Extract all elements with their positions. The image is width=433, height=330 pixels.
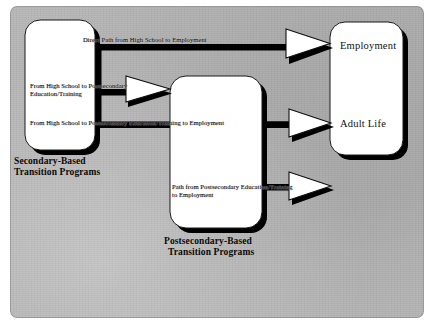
edge-label-hs-through-postsecondary: From High School to Postsecondary Educat… [30, 119, 224, 127]
edge-label-postsecondary-to-employment-line1: Path from Postsecondary Education/Traini… [172, 183, 293, 191]
caption-secondary-based-line2: Transition Programs [14, 167, 100, 178]
caption-postsecondary-based-line1: Postsecondary-Based [164, 236, 252, 247]
figure-screenshot: Direct Path from High School to Employme… [0, 0, 433, 330]
postsecondary-box [170, 76, 262, 228]
edge-label-hs-to-postsecondary-line1: From High School to Postsecondary [30, 82, 127, 90]
arrowhead-postsecondary-to-employment [289, 172, 334, 205]
edge-label-direct-employment: Direct Path from High School to Employme… [83, 36, 207, 44]
arrowhead-hs-to-postsecondary [126, 76, 172, 107]
caption-secondary-based-line1: Secondary-Based [14, 156, 86, 167]
arrowhead-to-adult-life [289, 109, 334, 142]
node-postsecondary-based[interactable] [170, 76, 267, 233]
edge-label-hs-to-postsecondary-line2: Education/Training [30, 90, 82, 98]
node-label-employment: Employment [340, 40, 396, 51]
arrowhead-direct-to-employment [286, 29, 333, 64]
caption-postsecondary-based-line2: Transition Programs [168, 247, 254, 258]
node-label-adult-life: Adult Life [340, 118, 386, 129]
shaft-direct-to-employment [95, 44, 289, 51]
edge-label-postsecondary-to-employment-line2: to Employment [172, 191, 214, 199]
